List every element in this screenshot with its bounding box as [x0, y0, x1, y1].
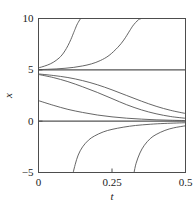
y-axis-title: x	[2, 93, 14, 99]
xtick-label-0: 0	[36, 176, 42, 188]
xtick-label-1: 0.25	[102, 176, 122, 188]
ytick-label-3: 10	[23, 12, 35, 24]
xtick-label-2: 0.5	[179, 176, 193, 188]
ytick-label-2: 5	[28, 63, 34, 75]
figure-container: 00.250.5−50510tx	[0, 0, 196, 208]
line-plot: 00.250.5−50510tx	[0, 0, 196, 208]
ytick-label-0: −5	[22, 166, 34, 178]
ytick-label-1: 0	[28, 115, 34, 127]
